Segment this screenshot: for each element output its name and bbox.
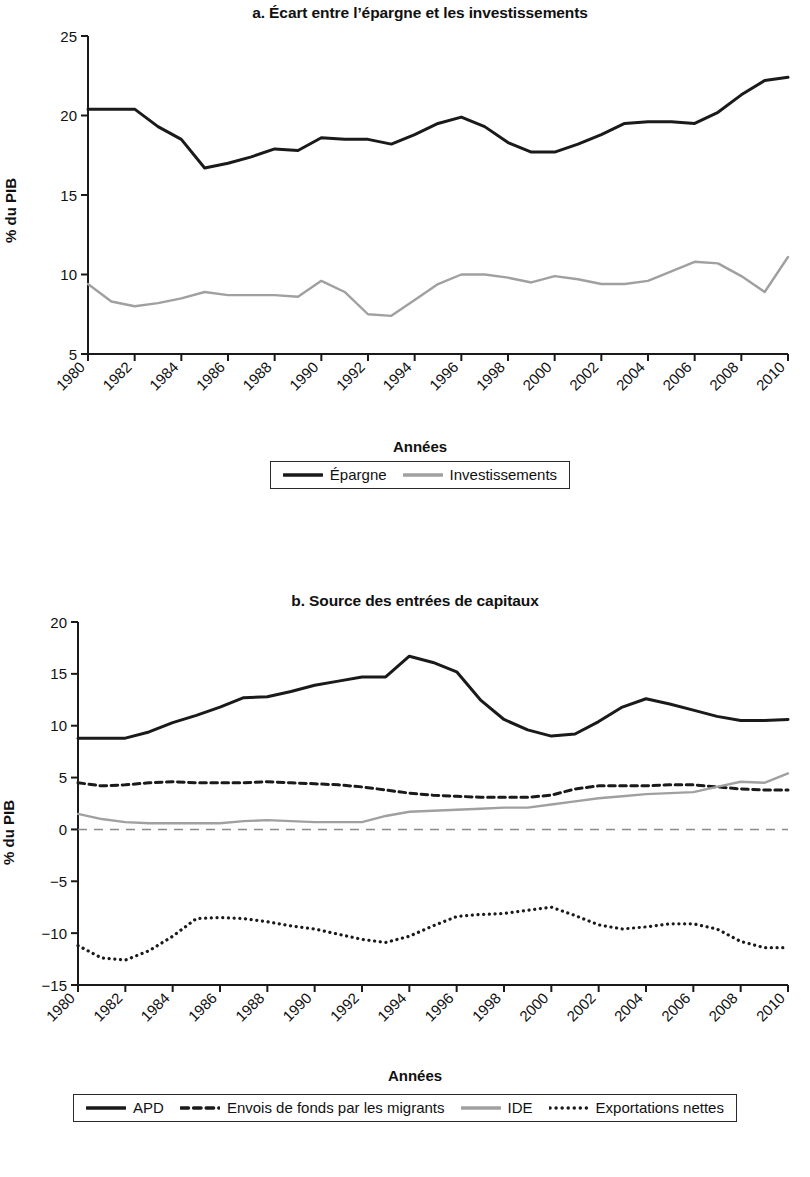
chart-a-title: a. Écart entre l’épargne et les investis… [0, 4, 810, 22]
chart-panel-a: a. Écart entre l’épargne et les investis… [0, 0, 810, 560]
chart-b-xaxis-title: Années [0, 1067, 810, 1084]
svg-text:15: 15 [50, 665, 67, 682]
svg-text:1990: 1990 [279, 989, 315, 1025]
svg-text:2006: 2006 [658, 989, 694, 1025]
svg-text:1996: 1996 [421, 989, 457, 1025]
svg-text:1980: 1980 [53, 358, 89, 394]
svg-text:2004: 2004 [613, 358, 649, 394]
svg-text:10: 10 [60, 266, 77, 283]
svg-text:2008: 2008 [706, 358, 742, 394]
svg-text:2004: 2004 [611, 989, 647, 1025]
svg-text:2006: 2006 [659, 358, 695, 394]
legend-swatch-solid [283, 469, 323, 481]
svg-text:1988: 1988 [239, 358, 275, 394]
svg-text:2000: 2000 [516, 989, 552, 1025]
chart-b-plot-area: −15−10−505101520198019821984198619881990… [0, 610, 810, 1065]
svg-text:25: 25 [60, 28, 77, 45]
chart-b-yaxis-title: % du PIB [0, 800, 17, 865]
svg-text:1998: 1998 [473, 358, 509, 394]
svg-text:1994: 1994 [374, 989, 410, 1025]
svg-text:1992: 1992 [327, 989, 363, 1025]
svg-text:1992: 1992 [333, 358, 369, 394]
svg-text:1996: 1996 [426, 358, 462, 394]
chart-panel-b: b. Source des entrées de capitaux −15−10… [0, 580, 810, 1177]
legend-swatch-dashed [180, 1102, 220, 1114]
svg-text:15: 15 [60, 187, 77, 204]
legend-item-pargne: Épargne [283, 467, 387, 482]
svg-text:−10: −10 [42, 925, 67, 942]
svg-text:2010: 2010 [753, 989, 789, 1025]
legend-label: Envois de fonds par les migrants [227, 1100, 445, 1115]
legend-label: Investissements [450, 467, 558, 482]
svg-text:−5: −5 [50, 873, 67, 890]
chart-a-yaxis-title: % du PIB [2, 178, 19, 243]
chart-a-legend: ÉpargneInvestissements [270, 461, 570, 489]
svg-text:1988: 1988 [232, 989, 268, 1025]
svg-text:1980: 1980 [43, 989, 79, 1025]
legend-swatch-solid [403, 469, 443, 481]
svg-text:1998: 1998 [469, 989, 505, 1025]
chart-b-title: b. Source des entrées de capitaux [0, 592, 810, 610]
legend-label: Épargne [330, 467, 387, 482]
svg-text:1994: 1994 [379, 358, 415, 394]
svg-text:20: 20 [60, 107, 77, 124]
svg-text:1984: 1984 [137, 989, 173, 1025]
legend-label: Exportations nettes [596, 1100, 724, 1115]
legend-swatch-solid [86, 1102, 126, 1114]
svg-text:2000: 2000 [519, 358, 555, 394]
legend-item-envois-de-fonds-par-les-migrants: Envois de fonds par les migrants [180, 1100, 445, 1115]
legend-label: APD [133, 1100, 164, 1115]
svg-text:10: 10 [50, 717, 67, 734]
chart-a-legend-row: ÉpargneInvestissements [0, 461, 810, 489]
legend-item-investissements: Investissements [403, 467, 558, 482]
svg-text:0: 0 [59, 821, 67, 838]
svg-text:1986: 1986 [185, 989, 221, 1025]
svg-text:5: 5 [59, 769, 67, 786]
legend-swatch-dotted [549, 1102, 589, 1114]
svg-text:2010: 2010 [753, 358, 789, 394]
legend-item-exportations-nettes: Exportations nettes [549, 1100, 724, 1115]
svg-text:2008: 2008 [705, 989, 741, 1025]
chart-a-svg: 5101520251980198219841986198819901992199… [0, 22, 810, 432]
svg-text:20: 20 [50, 614, 67, 631]
svg-text:2002: 2002 [566, 358, 602, 394]
svg-text:1982: 1982 [90, 989, 126, 1025]
svg-text:1990: 1990 [286, 358, 322, 394]
legend-item-ide: IDE [461, 1100, 533, 1115]
svg-text:1986: 1986 [193, 358, 229, 394]
chart-a-xaxis-title: Années [0, 438, 810, 455]
legend-item-apd: APD [86, 1100, 164, 1115]
chart-b-legend-row: APDEnvois de fonds par les migrantsIDEEx… [0, 1094, 810, 1122]
svg-text:1982: 1982 [99, 358, 135, 394]
chart-a-plot-area: 5101520251980198219841986198819901992199… [0, 22, 810, 432]
legend-label: IDE [508, 1100, 533, 1115]
legend-swatch-solid [461, 1102, 501, 1114]
svg-text:2002: 2002 [563, 989, 599, 1025]
chart-b-legend: APDEnvois de fonds par les migrantsIDEEx… [73, 1094, 737, 1122]
svg-text:1984: 1984 [146, 358, 182, 394]
chart-b-svg: −15−10−505101520198019821984198619881990… [0, 610, 810, 1065]
